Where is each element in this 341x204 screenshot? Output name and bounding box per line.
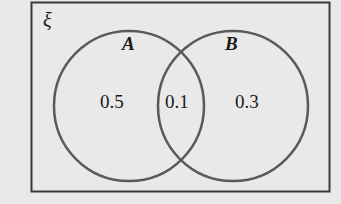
set-a-label: A [122,34,135,53]
universal-set-label: ξ [43,10,52,30]
intersection-value: 0.1 [165,92,189,111]
set-b-label: B [225,34,238,53]
venn-diagram: ξ A B 0.5 0.1 0.3 [0,0,341,204]
a-only-value: 0.5 [100,92,124,111]
b-only-value: 0.3 [235,92,259,111]
